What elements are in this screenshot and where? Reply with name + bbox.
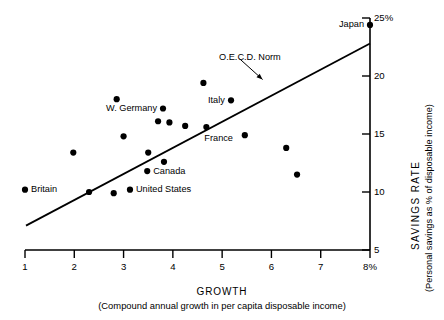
x-tick-label: 7 bbox=[307, 262, 335, 272]
data-point bbox=[145, 149, 151, 155]
x-axis-ticks bbox=[25, 250, 370, 258]
data-point bbox=[120, 133, 126, 139]
x-tick-label: 8% bbox=[356, 262, 384, 272]
point-label-united-states: United States bbox=[136, 185, 191, 194]
data-point-united-states bbox=[127, 187, 133, 193]
data-point bbox=[242, 132, 248, 138]
y-tick-label: 20 bbox=[374, 71, 385, 81]
x-tick-label: 2 bbox=[60, 262, 88, 272]
x-tick-label: 3 bbox=[110, 262, 138, 272]
data-point-britain bbox=[22, 187, 28, 193]
data-point bbox=[166, 119, 172, 125]
point-label-france: France bbox=[204, 134, 233, 143]
x-axis-title: GROWTH bbox=[0, 286, 444, 297]
point-label-britain: Britain bbox=[31, 185, 57, 194]
data-point bbox=[161, 159, 167, 165]
data-point-group bbox=[22, 22, 373, 196]
x-tick-label: 4 bbox=[159, 262, 187, 272]
data-point-italy bbox=[228, 97, 234, 103]
x-tick-label: 1 bbox=[11, 262, 39, 272]
data-point bbox=[200, 80, 206, 86]
data-point bbox=[86, 189, 92, 195]
y-axis-label-wrap: SAVINGS RATE (Personal savings as % of d… bbox=[390, 0, 444, 320]
y-tick-label: 5 bbox=[374, 245, 379, 255]
scatter-chart: 25%201510512345678% BritainUnited States… bbox=[0, 0, 444, 320]
data-point bbox=[182, 123, 188, 129]
data-point bbox=[111, 190, 117, 196]
data-point-france bbox=[203, 124, 209, 130]
data-point bbox=[155, 118, 161, 124]
point-label-italy: Italy bbox=[208, 96, 225, 105]
x-tick-label: 5 bbox=[208, 262, 236, 272]
data-point bbox=[114, 96, 120, 102]
x-tick-label: 6 bbox=[257, 262, 285, 272]
oecd-norm-trendline bbox=[26, 44, 370, 226]
x-axis-subtitle: (Compound annual growth in per capita di… bbox=[0, 300, 444, 311]
y-axis-ticks bbox=[362, 18, 370, 250]
data-point bbox=[294, 172, 300, 178]
data-point-canada bbox=[144, 168, 150, 174]
data-point bbox=[283, 145, 289, 151]
data-point-w-germany bbox=[160, 105, 166, 111]
point-label-canada: Canada bbox=[153, 167, 185, 176]
data-point bbox=[70, 149, 76, 155]
plot-area bbox=[0, 0, 444, 320]
y-tick-label: 10 bbox=[374, 187, 385, 197]
data-point-japan bbox=[367, 22, 373, 28]
y-axis-title: SAVINGS RATE bbox=[410, 161, 421, 250]
point-label-japan: Japan bbox=[339, 20, 364, 29]
y-axis-subtitle: (Personal savings as % of disposable inc… bbox=[424, 104, 434, 292]
y-tick-label: 15 bbox=[374, 129, 385, 139]
point-label-w-germany: W. Germany bbox=[106, 104, 157, 113]
oecd-norm-annotation: O.E.C.D. Norm bbox=[219, 52, 281, 62]
